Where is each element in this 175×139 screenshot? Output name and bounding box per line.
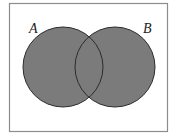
venn-diagram: A B bbox=[0, 0, 175, 139]
set-b-label: B bbox=[143, 21, 152, 36]
set-a-label: A bbox=[28, 21, 38, 36]
